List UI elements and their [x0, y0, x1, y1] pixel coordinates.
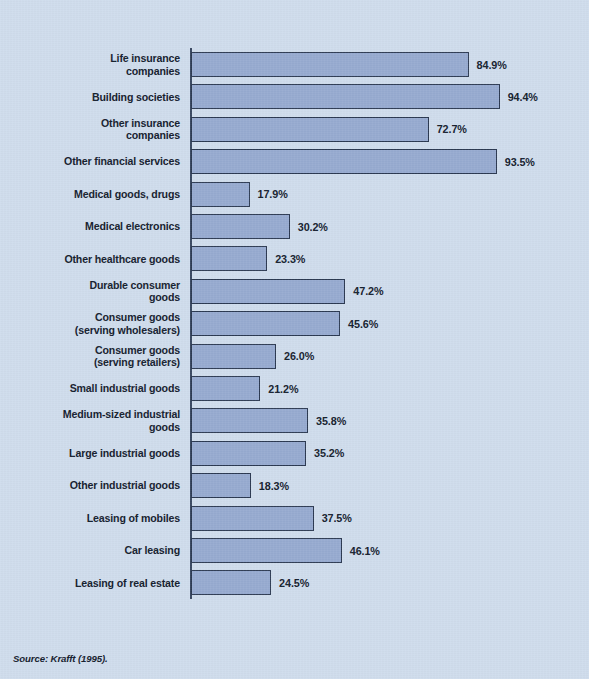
- bar-row: Medical electronics30.2%: [0, 210, 589, 243]
- bar: [191, 279, 345, 304]
- bar-container: [191, 84, 500, 109]
- bar: [191, 506, 314, 531]
- bar: [191, 149, 497, 174]
- bar-row: Small industrial goods21.2%: [0, 372, 589, 405]
- bar-value-label: 46.1%: [350, 534, 380, 567]
- bar-container: [191, 117, 429, 142]
- bar-value-label: 17.9%: [258, 178, 288, 211]
- bar-value-label: 47.2%: [353, 275, 383, 308]
- bar-container: [191, 182, 250, 207]
- bar-row: Life insurancecompanies84.9%: [0, 48, 589, 81]
- bar-value-label: 37.5%: [322, 502, 352, 535]
- bar: [191, 84, 500, 109]
- bar-value-label: 35.8%: [316, 404, 346, 437]
- bar-row: Other healthcare goods23.3%: [0, 242, 589, 275]
- bar-row: Leasing of mobiles37.5%: [0, 502, 589, 535]
- bar-container: [191, 570, 271, 595]
- bar-row: Medical goods, drugs17.9%: [0, 178, 589, 211]
- bar-category-label: Other financial services: [0, 145, 180, 178]
- bar-category-label-line: companies: [126, 129, 180, 142]
- bar-container: [191, 311, 340, 336]
- bar-value-label: 26.0%: [284, 340, 314, 373]
- bar-row: Large industrial goods35.2%: [0, 437, 589, 470]
- bar-category-label-line: Other financial services: [64, 155, 180, 168]
- bar-value-label: 23.3%: [275, 242, 305, 275]
- bar-category-label: Medium-sized industrialgoods: [0, 404, 180, 437]
- bar-category-label-line: Small industrial goods: [70, 382, 180, 395]
- bar-row: Other financial services93.5%: [0, 145, 589, 178]
- bar-row: Consumer goods(serving retailers)26.0%: [0, 340, 589, 373]
- bar-row: Building societies94.4%: [0, 80, 589, 113]
- bar-value-label: 94.4%: [508, 80, 538, 113]
- chart-figure: Life insurancecompanies84.9%Building soc…: [0, 0, 589, 679]
- bar-row: Car leasing46.1%: [0, 534, 589, 567]
- bar-value-label: 24.5%: [279, 566, 309, 599]
- bar: [191, 246, 267, 271]
- bar-category-label-line: Consumer goods: [95, 344, 180, 357]
- bar-category-label: Leasing of mobiles: [0, 502, 180, 535]
- bar-category-label: Medical electronics: [0, 210, 180, 243]
- bar-category-label-line: (serving retailers): [94, 356, 180, 369]
- bar-value-label: 30.2%: [298, 210, 328, 243]
- bar-category-label-line: goods: [149, 421, 180, 434]
- bar-category-label: Small industrial goods: [0, 372, 180, 405]
- bar-value-label: 72.7%: [437, 113, 467, 146]
- bar-category-label-line: goods: [149, 291, 180, 304]
- bar: [191, 117, 429, 142]
- bar-container: [191, 149, 497, 174]
- bar-row: Consumer goods(serving wholesalers)45.6%: [0, 307, 589, 340]
- bar-value-label: 93.5%: [505, 145, 535, 178]
- bar-category-label-line: (serving wholesalers): [75, 324, 180, 337]
- bar-row: Leasing of real estate24.5%: [0, 566, 589, 599]
- bar-category-label: Other industrial goods: [0, 469, 180, 502]
- bar-category-label-line: Leasing of real estate: [75, 577, 180, 590]
- bar-chart-plot-area: Life insurancecompanies84.9%Building soc…: [0, 0, 589, 610]
- bar-container: [191, 473, 251, 498]
- bar-category-label: Large industrial goods: [0, 437, 180, 470]
- bar-value-label: 84.9%: [477, 48, 507, 81]
- bar-category-label: Consumer goods(serving retailers): [0, 340, 180, 373]
- bar-value-label: 45.6%: [348, 307, 378, 340]
- bar-category-label: Other healthcare goods: [0, 242, 180, 275]
- bar-container: [191, 52, 469, 77]
- bar-category-label-line: Medium-sized industrial: [63, 408, 180, 421]
- bar-row: Durable consumergoods47.2%: [0, 275, 589, 308]
- bar: [191, 214, 290, 239]
- bar-category-label-line: Medical electronics: [85, 220, 180, 233]
- bar: [191, 376, 260, 401]
- bar-category-label: Leasing of real estate: [0, 566, 180, 599]
- bar: [191, 570, 271, 595]
- bar-category-label: Life insurancecompanies: [0, 48, 180, 81]
- bar-container: [191, 506, 314, 531]
- bar-category-label-line: Other industrial goods: [70, 479, 180, 492]
- bar-category-label: Consumer goods(serving wholesalers): [0, 307, 180, 340]
- source-note: Source: Krafft (1995).: [13, 653, 108, 664]
- bar: [191, 182, 250, 207]
- bar-category-label-line: Other insurance: [101, 117, 180, 130]
- bar-value-label: 35.2%: [314, 437, 344, 470]
- bar-row: Other insurancecompanies72.7%: [0, 113, 589, 146]
- bar-category-label: Building societies: [0, 80, 180, 113]
- bar-container: [191, 376, 260, 401]
- bar: [191, 441, 306, 466]
- bar: [191, 344, 276, 369]
- bar-container: [191, 344, 276, 369]
- bar-category-label-line: Building societies: [92, 91, 180, 104]
- bar: [191, 538, 342, 563]
- bar: [191, 473, 251, 498]
- bar-category-label: Durable consumergoods: [0, 275, 180, 308]
- bar-container: [191, 279, 345, 304]
- bar-category-label-line: Durable consumer: [89, 279, 180, 292]
- bar-container: [191, 408, 308, 433]
- bar-category-label: Other insurancecompanies: [0, 113, 180, 146]
- bar-row: Medium-sized industrialgoods35.8%: [0, 404, 589, 437]
- bar-category-label-line: Life insurance: [110, 52, 180, 65]
- bar-category-label-line: Other healthcare goods: [64, 253, 180, 266]
- bar-category-label-line: Leasing of mobiles: [87, 512, 180, 525]
- bar: [191, 52, 469, 77]
- bar-category-label: Medical goods, drugs: [0, 178, 180, 211]
- bar-category-label-line: Consumer goods: [95, 311, 180, 324]
- bar-container: [191, 246, 267, 271]
- bar-container: [191, 441, 306, 466]
- bar-category-label-line: Medical goods, drugs: [74, 188, 180, 201]
